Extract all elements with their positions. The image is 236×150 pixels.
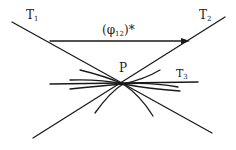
label-phi12: (φ12)*: [102, 24, 135, 38]
label-t3: T3: [176, 68, 188, 81]
label-t2-sub: 2: [207, 15, 211, 23]
label-t1: T1: [26, 9, 38, 23]
label-t3-sub: 3: [183, 73, 187, 81]
label-p: P: [119, 62, 127, 74]
diagram-canvas: T1 T2 T3 P (φ12)*: [0, 0, 236, 150]
label-phi12-main: (φ: [102, 23, 115, 37]
label-phi12-sub: 12: [115, 30, 124, 38]
label-t1-main: T: [26, 8, 34, 22]
label-phi12-tail: )*: [124, 23, 135, 37]
label-t2: T2: [199, 9, 211, 23]
curve-3: [95, 84, 153, 116]
point-p: [122, 83, 125, 86]
arrow-head: [181, 38, 190, 44]
label-t1-sub: 1: [34, 15, 38, 23]
label-t2-main: T: [199, 8, 207, 22]
